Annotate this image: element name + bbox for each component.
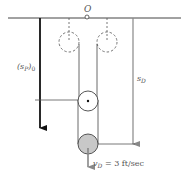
pulley-diagram: O (sP)0 sD vD = 3 ft/sec: [0, 0, 184, 175]
middle-pulley-axle: [87, 100, 89, 102]
sd-label: sD: [137, 74, 146, 84]
origin-point: [85, 15, 89, 19]
vd-label: vD = 3 ft/sec: [93, 159, 144, 169]
origin-label: O: [84, 4, 92, 14]
sp0-label: (sP)0: [17, 62, 35, 72]
